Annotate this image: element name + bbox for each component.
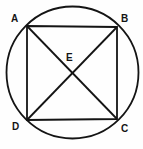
geometry-figure: A B C D E — [0, 0, 143, 149]
vertex-label-e: E — [66, 53, 73, 63]
vertex-label-a: A — [11, 14, 18, 24]
vertex-label-b: B — [121, 14, 128, 24]
vertex-label-c: C — [121, 124, 128, 134]
vertex-label-d: D — [12, 122, 19, 132]
